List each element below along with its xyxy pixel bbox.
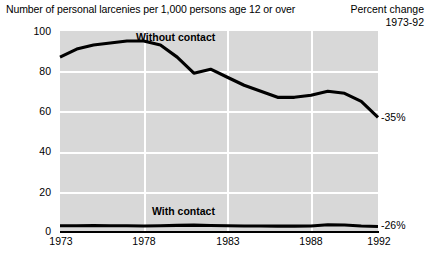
plot-area	[60, 31, 378, 232]
x-tick-1988: 1988	[281, 236, 341, 247]
series-label-without-contact: Without contact	[136, 31, 215, 43]
percent-change-with-contact: -26%	[381, 220, 406, 231]
subtitle-line-1: Percent change	[350, 3, 424, 15]
series-line-without-contact	[60, 41, 378, 117]
x-tick-1978: 1978	[114, 236, 174, 247]
chart-subtitle: Percent change 1973-92	[350, 3, 424, 29]
x-tick-1973: 1973	[31, 236, 91, 247]
x-tick-1992: 1992	[349, 236, 409, 247]
y-tick-20: 20	[1, 187, 51, 198]
chart-title: Number of personal larcenies per 1,000 p…	[6, 3, 295, 16]
subtitle-line-2: 1973-92	[350, 16, 424, 29]
percent-change-without-contact: -35%	[381, 112, 406, 123]
y-tick-60: 60	[1, 106, 51, 117]
y-tick-40: 40	[1, 146, 51, 157]
x-axis-line	[60, 231, 379, 233]
series-canvas	[60, 31, 378, 232]
x-tick-1983: 1983	[198, 236, 258, 247]
y-tick-100: 100	[1, 26, 51, 37]
chart-figure: Number of personal larcenies per 1,000 p…	[0, 0, 429, 263]
series-line-with-contact	[60, 225, 378, 227]
series-label-with-contact: With contact	[152, 205, 215, 217]
y-tick-80: 80	[1, 66, 51, 77]
